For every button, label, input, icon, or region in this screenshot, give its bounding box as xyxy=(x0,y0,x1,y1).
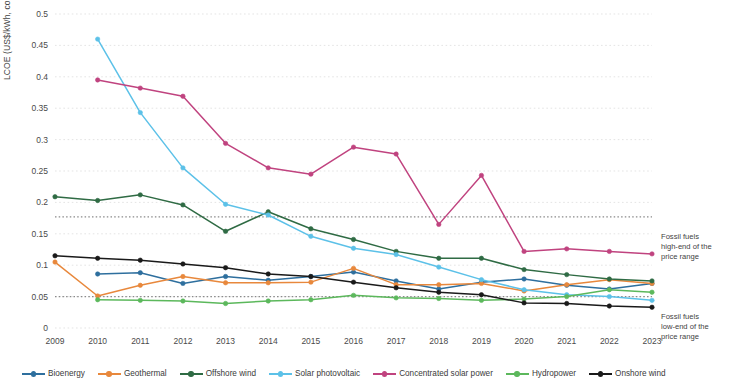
x-tick-label: 2020 xyxy=(515,336,534,346)
x-tick-label: 2014 xyxy=(259,336,278,346)
y-tick-label: 0.5 xyxy=(36,9,48,19)
x-tick-label: 2019 xyxy=(472,336,491,346)
x-tick-label: 2013 xyxy=(216,336,235,346)
y-tick-label: 0.25 xyxy=(31,166,48,176)
x-tick-label: 2016 xyxy=(344,336,363,346)
fossil-low-annotation: Fossil fuelslow-end of theprice range xyxy=(661,312,739,342)
y-tick-label: 0.3 xyxy=(36,135,48,145)
legend-marker-icon xyxy=(269,369,292,378)
annotation-line: price range xyxy=(661,332,739,342)
y-tick-label: 0.35 xyxy=(31,103,48,113)
legend-marker-icon xyxy=(98,369,121,378)
legend-label: Offshore wind xyxy=(206,369,256,378)
y-axis-tick-labels: 00.050.10.150.20.250.30.350.40.450.5 xyxy=(0,0,48,385)
legend-item-hydropower[interactable]: Hydropower xyxy=(506,369,576,378)
lcoe-line-chart: LCOE (US$/kWh, constant 2023 prices) 00.… xyxy=(0,0,743,385)
fossil-high-annotation: Fossil fuelshigh-end of theprice range xyxy=(661,232,739,262)
legend-marker-icon xyxy=(373,369,396,378)
legend-marker-icon xyxy=(506,369,529,378)
x-tick-label: 2021 xyxy=(557,336,576,346)
legend-label: Concentrated solar power xyxy=(399,369,493,378)
annotation-line: low-end of the xyxy=(661,322,739,332)
legend-item-solar-photovoltaic[interactable]: Solar photovoltaic xyxy=(269,369,360,378)
x-tick-label: 2009 xyxy=(46,336,65,346)
x-tick-label: 2015 xyxy=(301,336,320,346)
annotation-line: high-end of the xyxy=(661,242,739,252)
x-tick-label: 2012 xyxy=(173,336,192,346)
x-tick-label: 2022 xyxy=(600,336,619,346)
y-tick-label: 0.1 xyxy=(36,260,48,270)
legend-item-bioenergy[interactable]: Bioenergy xyxy=(22,369,85,378)
legend-item-geothermal[interactable]: Geothermal xyxy=(98,369,167,378)
legend-marker-icon xyxy=(180,369,203,378)
x-tick-label: 2023 xyxy=(643,336,662,346)
plot-area xyxy=(0,0,743,385)
x-tick-label: 2011 xyxy=(131,336,149,346)
legend-item-offshore-wind[interactable]: Offshore wind xyxy=(180,369,256,378)
annotation-line: price range xyxy=(661,252,739,262)
legend-label: Geothermal xyxy=(124,369,167,378)
legend-marker-icon xyxy=(22,369,45,378)
legend-label: Hydropower xyxy=(532,369,576,378)
legend-label: Solar photovoltaic xyxy=(295,369,360,378)
y-tick-label: 0.05 xyxy=(31,292,48,302)
legend-label: Bioenergy xyxy=(48,369,85,378)
legend-label: Onshore wind xyxy=(615,369,666,378)
annotation-line: Fossil fuels xyxy=(661,312,739,322)
annotation-line: Fossil fuels xyxy=(661,232,739,242)
legend-item-concentrated-solar-power[interactable]: Concentrated solar power xyxy=(373,369,493,378)
x-tick-label: 2017 xyxy=(387,336,406,346)
y-tick-label: 0.2 xyxy=(36,197,48,207)
series-geothermal xyxy=(53,260,654,298)
y-tick-label: 0.4 xyxy=(36,72,48,82)
x-tick-label: 2010 xyxy=(88,336,107,346)
y-tick-label: 0.15 xyxy=(31,229,48,239)
y-tick-label: 0 xyxy=(43,323,48,333)
series-bioenergy xyxy=(95,270,654,291)
series-concentrated-solar-power xyxy=(95,78,654,256)
legend-item-onshore-wind[interactable]: Onshore wind xyxy=(589,369,666,378)
y-tick-label: 0.45 xyxy=(31,40,48,50)
legend-marker-icon xyxy=(589,369,612,378)
chart-legend: BioenergyGeothermalOffshore windSolar ph… xyxy=(0,362,743,385)
x-tick-label: 2018 xyxy=(429,336,448,346)
